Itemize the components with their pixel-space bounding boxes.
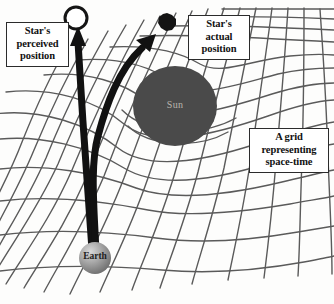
callout-line-3: space-time xyxy=(254,156,324,169)
spacetime-lensing-figure: Sun Earth Star's perceived position Star… xyxy=(0,0,334,304)
callout-line-1: Star's xyxy=(193,18,245,31)
earth-body xyxy=(79,242,111,274)
space-time-grid-callout: A grid representing space-time xyxy=(249,128,329,173)
callout-line-1: Star's xyxy=(11,25,64,38)
callout-line-3: position xyxy=(193,43,245,56)
callout-line-2: perceived xyxy=(11,38,64,51)
callout-line-2: actual xyxy=(193,31,245,44)
star-actual-position-callout: Star's actual position xyxy=(188,15,250,60)
star-perceived-position-callout: Star's perceived position xyxy=(6,22,69,67)
callout-line-3: position xyxy=(11,50,64,63)
callout-line-1: A grid xyxy=(254,131,324,144)
callout-line-2: representing xyxy=(254,144,324,157)
sun-body xyxy=(133,66,217,146)
